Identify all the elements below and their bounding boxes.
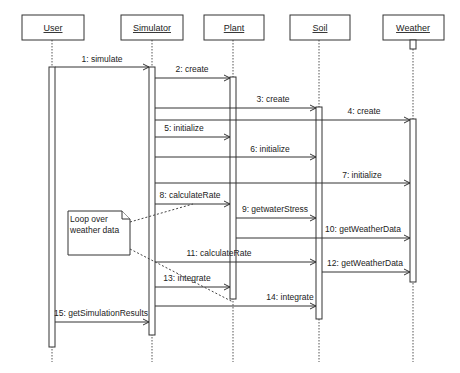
message-5: 5: initialize [155,123,230,140]
object-plant: Plant [204,15,264,40]
svg-text:2: create: 2: create [175,64,208,74]
svg-text:5: initialize: 5: initialize [164,123,204,133]
message-1: 1: simulate [55,54,149,70]
activation-weather [410,119,416,282]
activation-user [49,67,55,347]
sequence-diagram: User Simulator Plant Soil Weather 1: sim… [0,0,460,373]
object-label: Simulator [133,23,171,33]
object-user: User [22,15,84,40]
note-line-1: Loop over [70,214,108,224]
message-2: 2: create [155,64,230,81]
svg-text:11: calculateRate: 11: calculateRate [186,248,251,258]
message-12: 12: getWeatherData [322,258,410,275]
object-label: Plant [224,23,245,33]
object-simulator: Simulator [121,15,183,40]
message-13: 13: integrate [155,273,230,290]
message-9: 9: getwaterStress [236,204,316,221]
svg-text:4: create: 4: create [347,106,380,116]
object-label: Weather [396,23,430,33]
svg-text:12: getWeatherData: 12: getWeatherData [327,258,403,268]
message-15: 15: getSimulationResults [54,308,149,325]
object-weather: Weather [383,15,444,40]
activation-plant [230,77,236,299]
svg-text:7: initialize: 7: initialize [342,170,382,180]
object-label: Soil [312,23,327,33]
message-7: 7: initialize [155,170,410,186]
svg-text:8: calculateRate: 8: calculateRate [160,190,221,200]
message-11: 11: calculateRate [155,248,316,265]
message-4: 4: create [155,106,410,123]
svg-text:9: getwaterStress: 9: getwaterStress [242,204,308,214]
activation-weather-top [410,40,416,49]
svg-text:10: getWeatherData: 10: getWeatherData [325,224,401,234]
svg-text:14: integrate: 14: integrate [266,292,314,302]
object-label: User [43,23,62,33]
note-anchor-top [130,204,193,222]
svg-text:6: initialize: 6: initialize [250,144,290,154]
object-soil: Soil [290,15,350,40]
svg-text:1: simulate: 1: simulate [81,54,122,64]
svg-text:3: create: 3: create [256,94,289,104]
activation-simulator [149,67,155,335]
note-line-2: weather data [69,225,119,235]
svg-text:15: getSimulationResults: 15: getSimulationResults [54,308,148,318]
activation-soil [316,107,322,319]
message-10: 10: getWeatherData [236,224,410,241]
